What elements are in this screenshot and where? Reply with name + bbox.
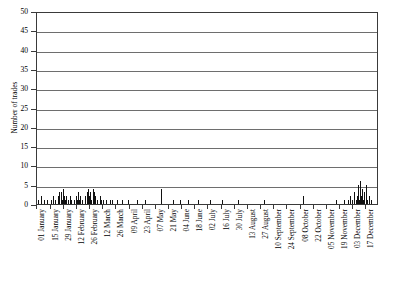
y-axis-tick-label: 10 [0,162,28,170]
bar [53,196,54,204]
bar [371,200,372,204]
bar [103,200,104,204]
bar [106,200,107,204]
bar [55,200,56,204]
x-axis-tick-label: 02 July [210,209,217,230]
bar [74,200,75,204]
x-axis-tick-label: 17 December [368,209,375,248]
y-axis-tick-label: 15 [0,143,28,151]
bar [350,196,351,204]
bar [238,200,239,204]
x-axis-tick-label: 23 April [145,209,152,233]
x-axis-tick-label: 08 October [303,209,310,242]
bar [78,192,79,204]
bar [344,200,345,204]
y-axis-tick-label: 25 [0,105,28,113]
bar [38,200,39,204]
bar [180,200,181,204]
y-axis-tick-label: 5 [0,182,28,190]
bar [91,200,92,204]
y-axis-tick-label: 35 [0,66,28,74]
bar [264,200,265,204]
x-axis-tick-label: 29 January [66,209,73,241]
bar [59,192,60,204]
bar [303,196,304,204]
chart-container: Number of trades 05101520253035404550 01… [0,0,394,282]
x-axis-tick-label: 03 December [355,209,362,248]
x-axis-tick-label: 15 January [53,209,60,241]
x-axis-tick-label: 13 August [250,209,257,239]
x-axis-tick-label: 27 August [263,209,270,239]
bar [364,192,365,204]
x-axis-tick-label: 05 November [329,209,336,249]
x-axis-tick-label: 19 November [342,209,349,249]
y-axis-tick-label: 0 [0,201,28,209]
y-axis-tick-label: 30 [0,85,28,93]
x-axis-tick-label: 12 March [105,209,112,237]
x-axis-tick-label: 21 May [171,209,178,231]
x-axis-tick-label: 09 April [132,209,139,233]
bar [348,200,349,204]
x-axis-tick-label: 22 October [316,209,323,242]
x-axis-tick-label: 10 September [276,209,283,249]
y-axis-tick-label: 45 [0,27,28,35]
bar [161,189,162,204]
bar [97,200,98,204]
x-axis-tick-label: 07 May [158,209,165,231]
bar [68,200,69,204]
bar [80,196,81,204]
bar [173,200,174,204]
bar [95,196,96,204]
bar [198,200,199,204]
plot-area [36,12,378,205]
x-axis-tick-label: 26 March [118,209,125,237]
bar [336,200,337,204]
bar [82,200,83,204]
bar [188,200,189,204]
bar [71,200,72,204]
bar [41,196,42,204]
bar [110,200,111,204]
bar [112,200,113,204]
bar [145,200,146,204]
y-axis-tick-label: 40 [0,47,28,55]
bar [44,200,45,204]
bar [367,200,368,204]
bar [117,200,118,204]
bar [66,196,67,204]
x-axis-tick-label: 12 February [79,209,86,244]
bar [101,200,102,204]
x-axis-tick-label: 30 July [237,209,244,230]
x-axis-tick-label: 26 February [92,209,99,244]
x-axis-tick-label: 01 January [39,209,46,241]
bar-series [37,13,377,204]
bar [354,192,355,204]
bar [352,200,353,204]
bar [137,200,138,204]
x-axis-tick-label: 16 July [224,209,231,230]
bar [51,200,52,204]
bar [210,200,211,204]
bar [122,200,123,204]
x-axis-tick-label: 24 September [289,209,296,249]
y-axis-tick-label: 50 [0,8,28,16]
x-axis-tick-label: 04 June [184,209,191,232]
bar [222,200,223,204]
bar [357,196,358,204]
x-axis-tick-labels: 01 January15 January29 January12 Februar… [36,209,378,282]
y-axis-tick-label: 20 [0,124,28,132]
bar [85,196,86,204]
bar [47,200,48,204]
bar [128,200,129,204]
x-axis-tick-label: 18 June [197,209,204,232]
bar [369,196,370,204]
